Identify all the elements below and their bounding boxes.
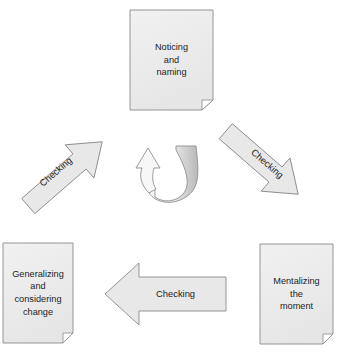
node-mentalizing-the-moment-shape[interactable] bbox=[260, 244, 333, 344]
arrow-checking-top-to-bottom-right-shape[interactable] bbox=[211, 115, 312, 211]
arrow-checking-bottom-right-to-bottom-left-shape[interactable] bbox=[105, 263, 226, 325]
node-noticing-and-naming-shape[interactable] bbox=[130, 10, 213, 110]
diagram-shapes-layer bbox=[0, 0, 342, 352]
node-generalizing-and-considering-change-shape[interactable] bbox=[3, 243, 73, 343]
diagram-canvas: Noticing and naming Mentalizing the mome… bbox=[0, 0, 342, 352]
arrow-checking-bottom-left-to-top-shape[interactable] bbox=[14, 125, 117, 223]
arrow-center-u-turn-shape[interactable] bbox=[136, 146, 198, 202]
